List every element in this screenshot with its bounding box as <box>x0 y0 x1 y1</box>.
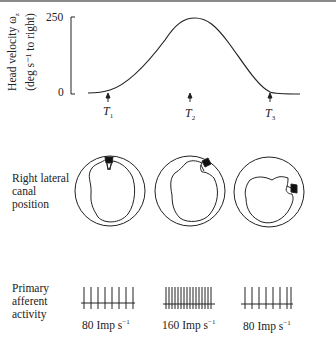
rate-label-2: 160 Imp s−1 <box>162 318 215 331</box>
rate-label-1: 80 Imp s−1 <box>82 318 130 331</box>
canal-diagram-1 <box>75 156 145 226</box>
time-arrows <box>106 93 272 102</box>
canal-position-label: Right lateral canal position <box>12 172 69 211</box>
spike-train-2 <box>163 287 215 309</box>
time-marker-t1: T1 <box>103 104 113 120</box>
spike-train-1 <box>81 287 135 309</box>
canal-diagram-3 <box>234 157 304 227</box>
velocity-curve <box>88 18 300 94</box>
time-marker-t3: T3 <box>265 106 275 122</box>
spike-train-3 <box>241 287 293 309</box>
afferent-activity-label: Primary afferent activity <box>12 282 49 321</box>
rate-label-3: 80 Imp s−1 <box>243 319 291 332</box>
figure-graphics <box>0 0 336 338</box>
time-marker-t2: T2 <box>185 106 195 122</box>
velocity-y-axis <box>71 17 75 94</box>
canal-diagram-2 <box>155 156 225 226</box>
